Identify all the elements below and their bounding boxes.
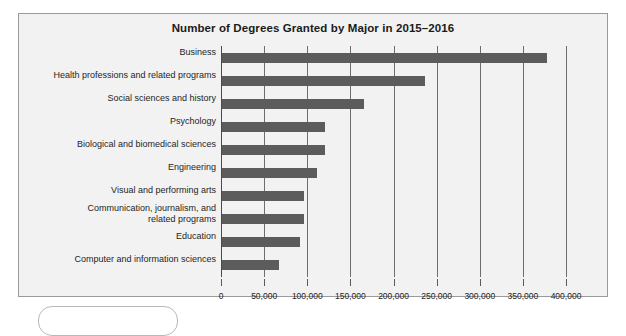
- bar: [222, 214, 304, 224]
- x-tick-label: 200,000: [378, 291, 409, 301]
- x-tick-label: 150,000: [335, 291, 366, 301]
- bar-row: Health professions and related programs: [221, 69, 566, 93]
- bar-row: Biological and biomedical sciences: [221, 138, 566, 162]
- bar-row: Engineering: [221, 161, 566, 185]
- bar-row: Psychology: [221, 115, 566, 139]
- category-label: Business: [0, 47, 216, 58]
- category-label: Health professions and related programs: [0, 70, 216, 81]
- x-tick: [221, 279, 222, 286]
- bar-row: Visual and performing arts: [221, 184, 566, 208]
- bar: [222, 99, 364, 109]
- category-label: Psychology: [0, 116, 216, 127]
- x-tick: [350, 279, 351, 286]
- x-tick-label: 300,000: [464, 291, 495, 301]
- chart-panel: Number of Degrees Granted by Major in 20…: [18, 13, 608, 297]
- category-label: Social sciences and history: [0, 93, 216, 104]
- x-tick: [480, 279, 481, 286]
- bar: [222, 168, 317, 178]
- category-label: Education: [0, 231, 216, 242]
- bar: [222, 145, 325, 155]
- bar: [222, 237, 300, 247]
- x-tick-label: 400,000: [551, 291, 582, 301]
- category-label: Communication, journalism, and related p…: [0, 203, 216, 224]
- bar: [222, 76, 425, 86]
- bar-row: Business: [221, 46, 566, 70]
- category-label: Computer and information sciences: [0, 254, 216, 265]
- x-tick: [437, 279, 438, 286]
- x-tick-label: 350,000: [508, 291, 539, 301]
- bar: [222, 260, 279, 270]
- x-tick: [307, 279, 308, 286]
- bar-row: Social sciences and history: [221, 92, 566, 116]
- gridline: [566, 46, 567, 277]
- x-tick-label: 50,000: [251, 291, 277, 301]
- bar-row: Computer and information sciences: [221, 253, 566, 277]
- category-label: Biological and biomedical sciences: [0, 139, 216, 150]
- bar: [222, 122, 325, 132]
- plot-area: 050,000100,000150,000200,000250,000300,0…: [221, 46, 566, 286]
- category-label: Visual and performing arts: [0, 185, 216, 196]
- bar: [222, 191, 304, 201]
- x-tick-label: 0: [219, 291, 224, 301]
- x-tick: [566, 279, 567, 286]
- x-tick-label: 100,000: [292, 291, 323, 301]
- rounded-callout-shape: [38, 306, 178, 336]
- bar-row: Communication, journalism, and related p…: [221, 207, 566, 231]
- bar-row: Education: [221, 230, 566, 254]
- x-tick-label: 250,000: [421, 291, 452, 301]
- x-tick: [264, 279, 265, 286]
- chart-title: Number of Degrees Granted by Major in 20…: [19, 22, 607, 34]
- category-label: Engineering: [0, 162, 216, 173]
- bar: [222, 53, 547, 63]
- x-tick: [394, 279, 395, 286]
- x-tick: [523, 279, 524, 286]
